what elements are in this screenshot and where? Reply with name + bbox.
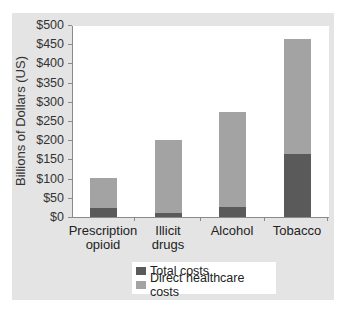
x-tick [200,217,201,221]
bar-illicit-drugs [155,140,182,217]
x-tick [264,217,265,221]
y-tick-label: $350 [36,77,64,89]
bar-segment-total-costs [90,208,117,217]
y-tick-label: $300 [36,96,64,108]
y-tick-label: $0 [50,211,64,223]
y-tick [68,159,72,160]
bar-alcohol [219,112,246,217]
legend-swatch-dark [136,267,146,275]
y-tick [68,83,72,84]
legend-label: Direct healthcare costs [150,271,276,299]
x-tick-label: Tobacco [252,224,342,238]
y-tick [68,121,72,122]
x-tick [134,217,135,221]
y-tick-label: $200 [36,134,64,146]
y-tick [68,140,72,141]
legend-item-direct-healthcare: Direct healthcare costs [136,278,276,292]
bar-segment-direct-healthcare [155,140,182,217]
y-tick [68,198,72,199]
y-tick [68,44,72,45]
bar-segment-total-costs [284,154,311,217]
bar-segment-total-costs [155,213,182,217]
y-tick-label: $50 [43,192,64,204]
x-tick-label-line: Tobacco [252,224,342,238]
x-tick [327,217,328,221]
y-tick-label: $450 [36,38,64,50]
x-tick-label-line: drugs [123,238,213,252]
bar-segment-direct-healthcare [219,112,246,217]
y-tick [68,63,72,64]
y-tick [68,217,72,218]
bar-prescription-opioid [90,178,117,217]
y-tick-label: $500 [36,19,64,31]
y-tick [68,25,72,26]
legend-swatch-light [136,281,146,289]
y-tick [68,102,72,103]
y-tick-label: $150 [36,153,64,165]
y-axis-label: Billions of Dollars (US) [13,56,28,186]
bar-segment-total-costs [219,207,246,217]
y-tick-label: $400 [36,57,64,69]
y-tick-label: $100 [36,173,64,185]
y-tick-label: $250 [36,115,64,127]
y-tick [68,179,72,180]
legend: Total costs Direct healthcare costs [132,262,276,294]
bar-tobacco [284,39,311,217]
